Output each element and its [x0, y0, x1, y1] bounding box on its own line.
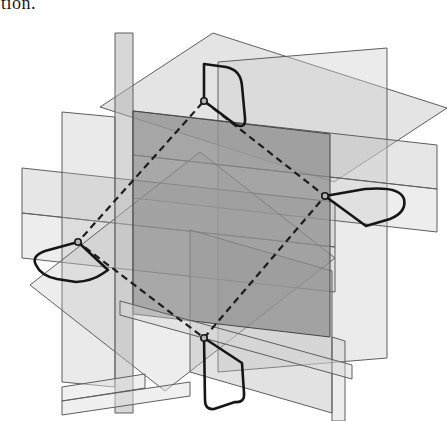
cad-figure: [0, 0, 447, 421]
path-vertex-top: [201, 98, 207, 104]
scanned-page: tion.: [0, 0, 447, 421]
work-plane-central-dark: [133, 111, 330, 337]
work-plane-column-center: [115, 33, 133, 413]
work-plane-column-right: [332, 337, 345, 421]
path-vertex-left: [75, 239, 81, 245]
path-vertex-bottom: [201, 335, 207, 341]
work-planes-figure-svg: [0, 0, 447, 421]
path-vertex-right: [322, 193, 328, 199]
